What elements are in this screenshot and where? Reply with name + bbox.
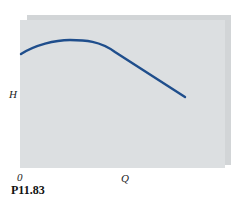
- y-axis-label: H: [9, 88, 17, 100]
- origin-label: 0: [17, 171, 23, 183]
- x-axis-label: Q: [121, 172, 129, 184]
- figure-caption: P11.83: [11, 183, 45, 198]
